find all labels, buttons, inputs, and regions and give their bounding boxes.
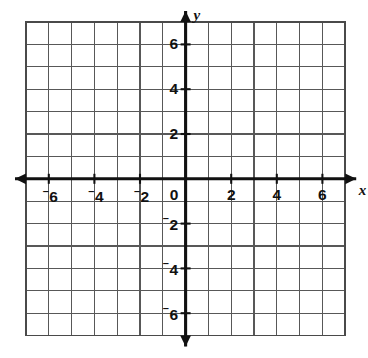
negative-sign: –	[163, 257, 169, 269]
coordinate-plane-graphic: –6–4–2246642–2–4–6 x y 0	[0, 0, 368, 358]
y-tick-label: 6	[169, 35, 178, 52]
tick-digits: 4	[169, 261, 178, 278]
tick-digits: 2	[169, 216, 178, 233]
x-tick-label: 6	[318, 186, 327, 203]
origin-label: 0	[170, 186, 179, 203]
negative-sign: –	[163, 212, 169, 224]
tick-digits: 6	[49, 188, 58, 205]
x-tick-label: 4	[272, 186, 281, 203]
x-axis-name-label: x	[358, 182, 367, 198]
x-tick-label: 2	[227, 186, 236, 203]
y-tick-label: 4	[169, 80, 178, 97]
tick-digits: 4	[95, 188, 104, 205]
y-axis-name-label: y	[192, 7, 201, 23]
negative-sign: –	[134, 185, 140, 197]
tick-digits: 2	[141, 188, 150, 205]
negative-sign: –	[163, 302, 169, 314]
negative-sign: –	[88, 185, 94, 197]
tick-digits: 6	[169, 306, 178, 323]
coordinate-plane-figure: –6–4–2246642–2–4–6 x y 0	[0, 0, 368, 358]
y-tick-label: 2	[169, 125, 178, 142]
negative-sign: –	[43, 185, 49, 197]
